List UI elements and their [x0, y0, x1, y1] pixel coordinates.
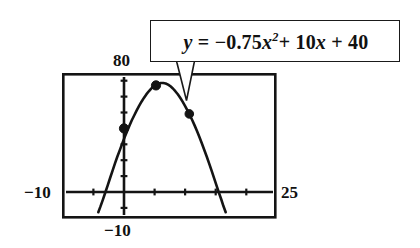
equation-term3: + 40: [331, 31, 368, 53]
equation-equals: =: [198, 31, 210, 53]
equation-term2: + 10: [279, 31, 316, 53]
graph-figure: y = −0.75x2+ 10x + 40 80 −10 25 −10: [0, 0, 420, 248]
equation-term1-variable: x: [262, 31, 272, 53]
calculator-screen-frame: [63, 74, 275, 217]
y-min-label: −10: [104, 221, 131, 241]
data-point-vertex: [151, 81, 160, 90]
equation-term1-coefficient: −0.75: [215, 31, 262, 53]
x-min-label: −10: [24, 183, 51, 203]
data-point-right: [185, 110, 194, 119]
equation-term2-variable: x: [316, 31, 326, 53]
y-max-label: 80: [113, 51, 130, 71]
equation-label: y = −0.75x2+ 10x + 40: [151, 21, 401, 63]
x-max-label: 25: [281, 183, 298, 203]
equation-callout-box: y = −0.75x2+ 10x + 40: [150, 20, 400, 62]
data-point-left: [119, 124, 128, 133]
equation-lhs: y: [184, 31, 193, 53]
